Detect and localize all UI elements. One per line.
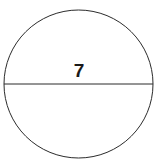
geometry-figure: 7 [0, 0, 158, 163]
diameter-measure-label: 7 [70, 59, 88, 83]
